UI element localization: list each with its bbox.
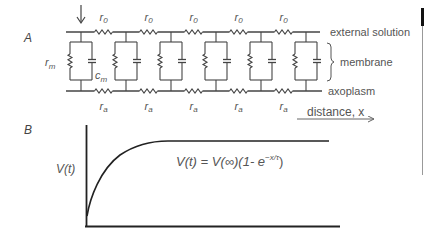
r0-label: r0 xyxy=(235,11,244,25)
membrane-label: membrane xyxy=(340,56,393,68)
ra-label: ra xyxy=(190,100,199,114)
r0-label: r0 xyxy=(145,11,154,25)
membrane-resistor xyxy=(293,54,297,68)
ra-label: ra xyxy=(100,100,109,114)
membrane-segment xyxy=(293,32,321,91)
equation: V(t) = V(∞)(1- e−x/τ) xyxy=(176,153,283,169)
membrane-resistor xyxy=(203,54,207,68)
membrane-resistor xyxy=(113,54,117,68)
cm-label: cm xyxy=(95,69,108,84)
resistor-labels: r0rar0rar0rar0rar0ra xyxy=(100,11,289,114)
ra-label: ra xyxy=(235,100,244,114)
r0-label: r0 xyxy=(100,11,109,25)
membrane-segment xyxy=(203,28,248,95)
panel-a-label: A xyxy=(23,31,32,45)
membrane-resistor xyxy=(158,54,162,68)
external-solution-label: external solution xyxy=(330,26,410,38)
membrane-segments xyxy=(68,28,321,95)
cable-model-figure: A r0rar0rar0rar0rar0ra rm cm external so… xyxy=(0,0,424,233)
ra-label: ra xyxy=(280,100,289,114)
membrane-brace xyxy=(327,43,334,81)
y-axis-label: V(t) xyxy=(56,162,75,176)
membrane-segment xyxy=(248,28,293,95)
axoplasm-label: axoplasm xyxy=(328,85,375,97)
down-arrow-icon xyxy=(77,5,85,23)
membrane-segment xyxy=(68,28,113,95)
membrane-segment xyxy=(113,28,158,95)
membrane-resistor xyxy=(68,54,72,68)
ra-label: ra xyxy=(145,100,154,114)
membrane-segment xyxy=(158,28,203,95)
panel-b-label: B xyxy=(24,123,32,137)
r0-label: r0 xyxy=(280,11,289,25)
rm-label: rm xyxy=(45,56,56,71)
voltage-curve xyxy=(87,141,329,216)
membrane-resistor xyxy=(248,54,252,68)
distance-label: distance, x xyxy=(307,105,364,119)
r0-label: r0 xyxy=(190,11,199,25)
